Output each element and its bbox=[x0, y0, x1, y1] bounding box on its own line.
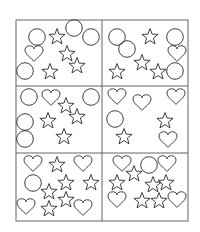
circle-icon bbox=[17, 63, 34, 80]
panel-bottom-left bbox=[17, 156, 99, 216]
star-icon bbox=[58, 175, 74, 190]
circle-icon bbox=[167, 29, 184, 46]
heart-icon bbox=[113, 156, 131, 172]
star-icon bbox=[109, 64, 125, 79]
star-icon bbox=[59, 46, 75, 61]
star-icon bbox=[116, 129, 132, 144]
panel-top-left bbox=[17, 20, 100, 80]
circle-icon bbox=[21, 89, 38, 106]
star-icon bbox=[40, 113, 56, 128]
star-icon bbox=[158, 175, 174, 190]
heart-icon bbox=[25, 46, 43, 62]
star-icon bbox=[145, 177, 161, 192]
circle-icon bbox=[29, 29, 46, 46]
panel-middle-right bbox=[107, 89, 185, 148]
panel-bottom-right bbox=[108, 156, 186, 208]
worksheet-canvas bbox=[0, 0, 200, 232]
star-icon bbox=[41, 201, 57, 216]
circle-icon bbox=[66, 20, 83, 37]
panel-middle-left bbox=[17, 89, 100, 148]
star-icon bbox=[134, 193, 150, 208]
circle-icon bbox=[83, 29, 100, 46]
star-icon bbox=[126, 166, 142, 181]
heart-icon bbox=[158, 156, 176, 172]
heart-icon bbox=[108, 89, 126, 105]
star-icon bbox=[69, 109, 85, 124]
heart-icon bbox=[133, 95, 151, 111]
star-icon bbox=[58, 192, 74, 207]
heart-icon bbox=[159, 132, 177, 148]
heart-icon bbox=[167, 89, 185, 105]
star-icon bbox=[49, 29, 65, 44]
star-icon bbox=[134, 55, 150, 70]
panel-grid bbox=[16, 20, 188, 221]
heart-icon bbox=[17, 199, 35, 215]
star-icon bbox=[41, 184, 57, 199]
star-icon bbox=[151, 193, 167, 208]
circle-icon bbox=[83, 89, 100, 106]
circle-icon bbox=[141, 157, 158, 174]
circle-icon bbox=[25, 175, 42, 192]
circle-icon bbox=[107, 111, 124, 128]
star-icon bbox=[42, 64, 58, 79]
circle-icon bbox=[17, 131, 34, 148]
star-icon bbox=[150, 64, 166, 79]
star-icon bbox=[83, 175, 99, 190]
circle-icon bbox=[17, 114, 34, 131]
heart-icon bbox=[74, 200, 92, 216]
shapes-layer bbox=[17, 20, 186, 216]
heart-icon bbox=[168, 46, 186, 62]
star-icon bbox=[109, 175, 125, 190]
heart-icon bbox=[108, 192, 126, 208]
circle-icon bbox=[119, 41, 136, 58]
star-icon bbox=[142, 29, 158, 44]
heart-icon bbox=[168, 192, 186, 208]
circle-icon bbox=[167, 63, 184, 80]
shape-worksheet bbox=[0, 0, 200, 232]
star-icon bbox=[49, 157, 65, 172]
star-icon bbox=[56, 129, 72, 144]
circle-icon bbox=[109, 29, 126, 46]
star-icon bbox=[58, 98, 74, 113]
heart-icon bbox=[24, 156, 42, 172]
star-icon bbox=[157, 113, 173, 128]
panel-top-right bbox=[109, 29, 186, 80]
heart-icon bbox=[74, 156, 92, 172]
heart-icon bbox=[42, 90, 60, 106]
